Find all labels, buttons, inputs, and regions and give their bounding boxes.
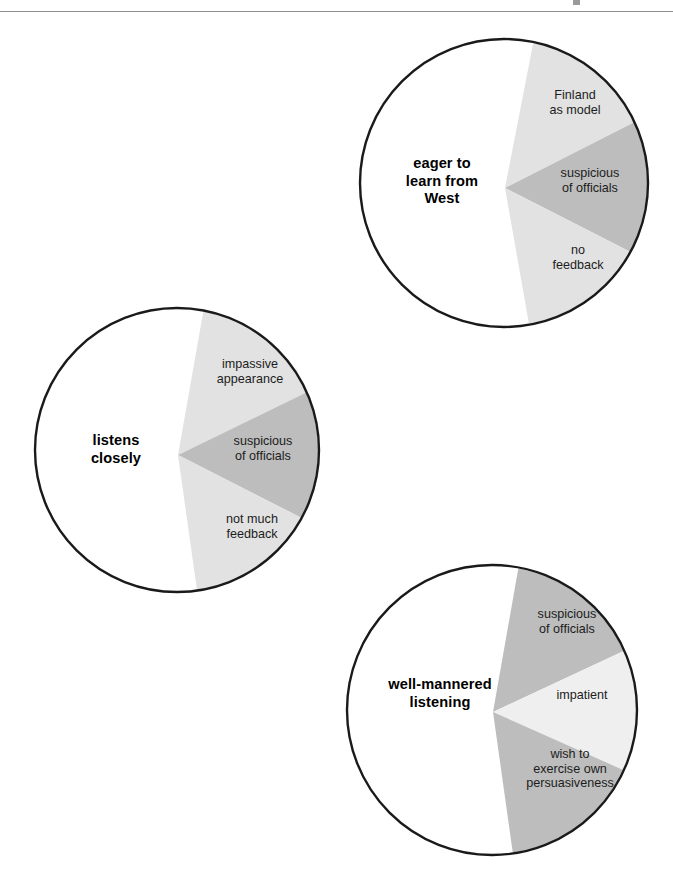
chart-eager-to-learn-slice-3 (505, 188, 673, 500)
chart2-center-label: listens closely (56, 432, 176, 467)
pie-diagram-stage: eager to learn from West Finland as mode… (0, 0, 673, 875)
chart3-center-label: well-mannered listening (360, 676, 520, 711)
chart-eager-to-learn (360, 0, 673, 500)
chart1-center-label: eager to learn from West (382, 155, 502, 208)
chart-well-mannered-listening-slice-1 (493, 398, 673, 712)
chart-well-mannered-listening (347, 398, 673, 875)
